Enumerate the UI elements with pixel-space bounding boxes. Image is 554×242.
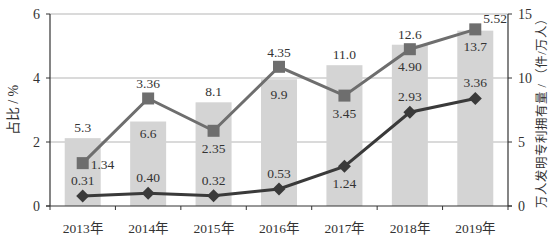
line-value-label: 1.24 — [333, 176, 357, 191]
x-tick-label: 2014年 — [128, 221, 168, 236]
bar-value-label: 13.7 — [463, 39, 487, 54]
line-value-label: 4.35 — [267, 45, 291, 60]
y-left-tick-label: 6 — [33, 7, 40, 22]
y-axis-right-label: 万人发明专利拥有量 / （件/万人） — [534, 12, 549, 207]
y-left-tick-label: 0 — [33, 199, 40, 214]
square-marker — [338, 90, 350, 102]
line-value-label: 3.45 — [333, 106, 357, 121]
bar-value-label: 6.6 — [140, 126, 157, 141]
line-value-label: 2.93 — [398, 89, 422, 104]
line-value-label: 5.52 — [483, 11, 507, 26]
y-right-tick-label: 15 — [518, 7, 532, 22]
line-value-label: 0.31 — [71, 173, 95, 188]
y-left-tick-label: 4 — [33, 71, 40, 86]
square-marker — [208, 125, 220, 137]
x-tick-label: 2015年 — [194, 221, 234, 236]
line-value-label: 0.32 — [202, 173, 226, 188]
bar-value-label: 11.0 — [333, 47, 356, 62]
line-value-label: 3.36 — [136, 76, 160, 91]
line-value-label: 0.40 — [136, 170, 160, 185]
y-right-tick-label: 5 — [518, 135, 525, 150]
square-marker — [77, 157, 89, 169]
line-value-label: 3.36 — [463, 75, 487, 90]
x-tick-label: 2013年 — [63, 221, 103, 236]
x-tick-label: 2018年 — [390, 221, 430, 236]
bar-value-label: 5.3 — [74, 120, 91, 135]
y-right-tick-label: 0 — [518, 199, 525, 214]
bar — [457, 31, 493, 206]
line-value-label: 0.53 — [267, 166, 291, 181]
combo-chart: 02460510152013年2014年2015年2016年2017年2018年… — [0, 0, 554, 242]
square-marker — [273, 61, 285, 73]
line-value-label: 2.35 — [202, 141, 226, 156]
x-tick-label: 2019年 — [455, 221, 495, 236]
y-left-tick-label: 2 — [33, 135, 40, 150]
x-tick-label: 2017年 — [324, 221, 364, 236]
line-value-label: 1.34 — [91, 157, 115, 172]
bar-value-label: 12.6 — [398, 27, 422, 42]
line-value-label: 4.90 — [398, 59, 422, 74]
bar-value-label: 8.1 — [205, 84, 222, 99]
x-tick-label: 2016年 — [259, 221, 299, 236]
y-axis-left-label: 占比 / % — [6, 84, 21, 135]
square-marker — [469, 23, 481, 35]
bar-value-label: 9.9 — [271, 87, 288, 102]
square-marker — [142, 92, 154, 104]
square-marker — [404, 43, 416, 55]
chart-canvas: 02460510152013年2014年2015年2016年2017年2018年… — [0, 0, 554, 242]
y-right-tick-label: 10 — [518, 71, 532, 86]
